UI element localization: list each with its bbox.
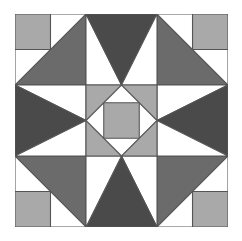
corner-square-bottom-left	[15, 192, 51, 228]
corner-square-top-left	[15, 14, 51, 50]
corner-square-bottom-right	[193, 192, 229, 228]
corner-square-top-right	[193, 14, 229, 50]
quilt-block-diagram	[15, 14, 228, 227]
center-inner-square	[104, 103, 140, 139]
